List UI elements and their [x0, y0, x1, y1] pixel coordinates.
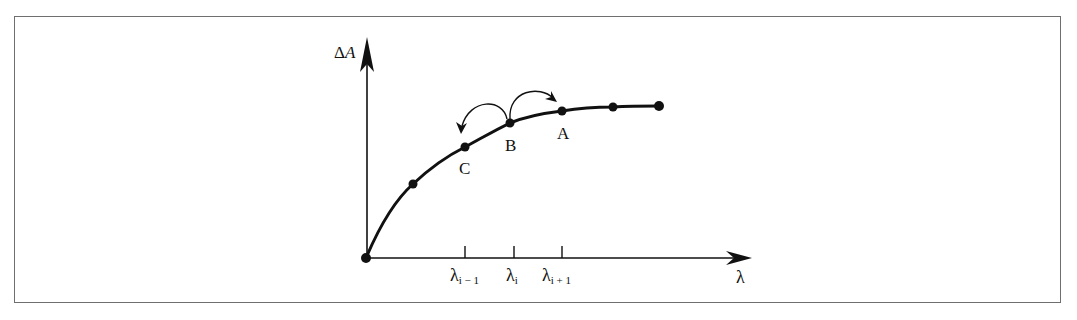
label-a: A: [557, 125, 569, 142]
tick-label-i: λi: [506, 266, 518, 286]
point-c: [461, 143, 470, 152]
arrow-b-to-c: [462, 104, 507, 126]
point-5: [609, 103, 618, 112]
label-c: C: [459, 160, 470, 177]
x-axis: [366, 246, 752, 265]
arrowhead-down-icon: [456, 122, 467, 134]
data-points: [361, 101, 664, 263]
y-axis-label: ΔA: [334, 44, 355, 61]
origin-point: [361, 253, 371, 263]
y-axis: [360, 37, 374, 258]
point-b: [506, 119, 515, 128]
tick-label-i-plus-1: λi + 1: [542, 266, 571, 286]
label-b: B: [505, 137, 516, 154]
point-a: [558, 107, 567, 116]
tick-label-i-minus-1: λi − 1: [450, 266, 479, 286]
point-1: [409, 180, 418, 189]
saturation-curve-diagram: [0, 0, 1077, 320]
x-axis-label: λ: [736, 268, 745, 286]
point-6: [654, 101, 664, 111]
figure-caption-clipped: [90, 312, 970, 320]
arrowhead-right-icon: [545, 91, 557, 102]
